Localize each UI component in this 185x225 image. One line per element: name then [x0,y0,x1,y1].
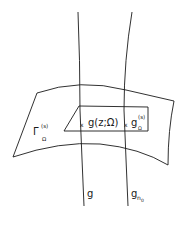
svg-text:x: x [124,121,128,128]
surface-label: Γ (s) Ω [33,123,48,142]
curve-label-g: g [87,188,93,199]
svg-text:Γ: Γ [33,126,39,137]
svg-text:(s): (s) [138,114,145,120]
svg-text:(s): (s) [41,123,48,129]
point-label-g-omega-s: x g (s) Ω [124,114,145,131]
svg-text:x: x [80,121,84,128]
diagram-canvas: Γ (s) Ω x g(z;Ω) x g (s) Ω g g n 0 [0,0,185,225]
svg-text:g(z;Ω): g(z;Ω) [88,117,119,128]
curve-g-n0 [124,12,132,206]
svg-text:g: g [131,117,137,128]
svg-text:0: 0 [141,198,144,203]
svg-text:Ω: Ω [42,136,46,142]
curve-g [78,12,84,206]
svg-text:Ω: Ω [138,125,142,131]
point-label-g-z-omega: x g(z;Ω) [80,117,119,128]
curve-label-g-n0: g n 0 [131,188,144,203]
